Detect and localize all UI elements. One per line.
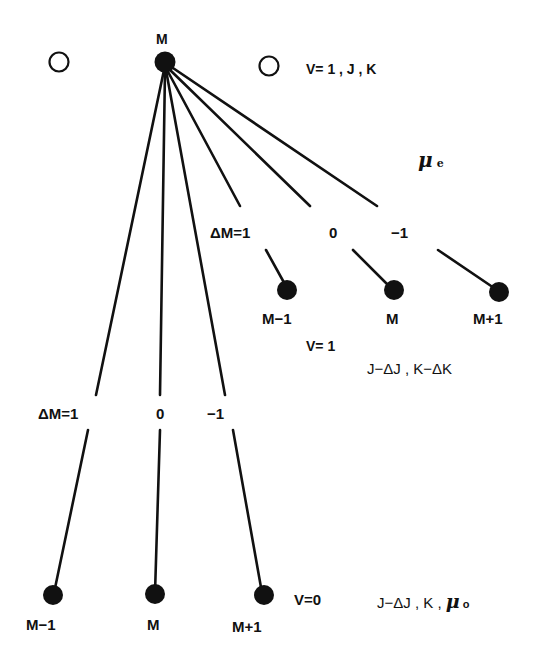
lower-node-label-m-plus1: M+1 [232,619,262,634]
line-lower-dm-0 [160,70,165,395]
upper-node-label-m-plus1: M+1 [473,311,503,326]
lower-node-label-m: M [147,617,160,632]
top-node-label: M [156,32,168,46]
lower-delta-label-plus1: ΔM=1 [38,406,78,421]
upper-node-label-m-minus1: M−1 [262,311,292,326]
lower-v-label: V=0 [294,592,321,607]
open-circle-right [260,57,279,76]
lower-delta-label-0: 0 [156,406,164,421]
upper-state-label: J−ΔJ , K−ΔK [367,361,452,376]
lower-node-label-m-minus1: M−1 [26,617,56,632]
lower-delta-label-minus1: −1 [207,406,224,421]
transition-diagram-lines [0,0,540,666]
mu-subscript-e: e [437,157,444,170]
mu-symbol: μ [418,148,433,172]
seg-upper-to-m-plus1 [438,250,497,290]
seg-lower-to-m [155,430,160,593]
upper-node-m-minus1 [277,280,297,300]
line-upper-dm-0 [168,68,310,206]
upper-delta-label-0: 0 [329,225,337,240]
line-lower-dm-plus1 [96,70,164,395]
upper-node-m [384,280,404,300]
seg-lower-to-m-minus1 [54,430,88,593]
seg-lower-to-m-plus1 [233,430,262,593]
lower-node-m-plus1 [254,585,274,605]
upper-delta-label-plus1: ΔM=1 [210,225,250,240]
lower-state-label: J−ΔJ , K , μo [377,592,469,611]
lower-state-text: J−ΔJ , K , [377,594,442,611]
top-node [155,52,176,73]
top-state-label: V= 1 , J , K [306,62,376,76]
mu-symbol-o: μ [446,590,460,612]
mu-e-label: μe [418,150,444,170]
lower-node-m-minus1 [43,585,63,605]
upper-node-label-m: M [386,311,399,326]
mu-subscript-o: o [463,598,470,610]
open-circle-left [50,53,69,72]
upper-delta-label-minus1: −1 [391,225,408,240]
upper-node-m-plus1 [489,282,509,302]
lower-node-m [145,584,165,604]
upper-v-label: V= 1 [306,339,335,353]
